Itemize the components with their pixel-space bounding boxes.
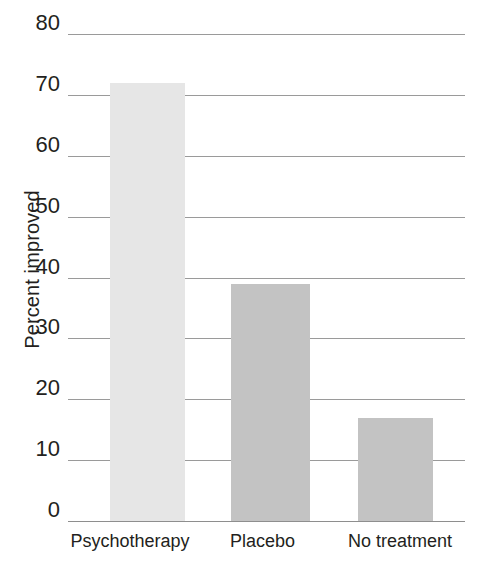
bar-psychotherapy: [110, 83, 185, 521]
y-tick-label-0: 0: [16, 499, 60, 521]
gridline-0-baseline: [68, 521, 465, 522]
y-axis-title: Percent improved: [21, 155, 44, 385]
x-tick-label-placebo: Placebo: [215, 531, 310, 552]
plot-area: [68, 34, 465, 521]
x-tick-label-no-treatment: No treatment: [325, 531, 475, 552]
x-tick-label-psychotherapy: Psychotherapy: [60, 531, 200, 552]
y-tick-label-60: 60: [16, 134, 60, 156]
bar-chart: Percent improved 80 70 60 50 40 30 20 10…: [0, 0, 490, 565]
bar-no-treatment: [358, 418, 433, 521]
y-tick-label-70: 70: [16, 73, 60, 95]
y-tick-label-10: 10: [16, 438, 60, 460]
y-tick-label-80: 80: [16, 12, 60, 34]
bar-placebo: [231, 284, 310, 521]
gridline-80: [68, 34, 465, 35]
